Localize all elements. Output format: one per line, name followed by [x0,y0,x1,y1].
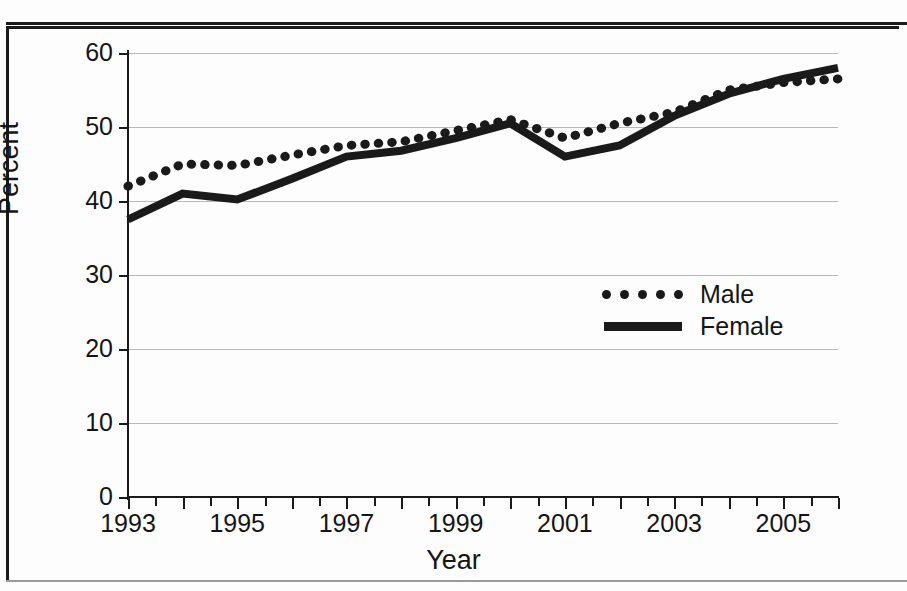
x-tick-2005 [783,498,785,509]
chart-legend: Male Female [600,278,783,342]
x-tick-2000 [510,498,512,509]
x-tick-1999 [456,498,458,509]
x-axis-title: Year [0,545,907,576]
y-tick-40 [119,201,128,203]
x-tick-1993.5 [155,498,157,506]
x-tick-1997 [346,498,348,509]
x-tick-2003 [674,498,676,509]
plot-area [128,53,838,497]
x-tick-1993 [128,498,130,509]
x-tick-1999.5 [483,498,485,506]
x-tick-label-1993: 1993 [100,510,156,537]
x-tick-label-2003: 2003 [646,510,702,537]
x-tick-label-2005: 2005 [756,510,812,537]
solid-line-key [600,315,686,337]
y-tick-50 [119,127,128,129]
x-tick-2001.5 [592,498,594,506]
x-tick-1996 [292,498,294,509]
x-tick-2004 [729,498,731,509]
dotted-line-key [600,283,686,305]
x-tick-label-1997: 1997 [319,510,375,537]
y-tick-label-50: 50 [55,114,113,139]
y-tick-label-40: 40 [55,188,113,213]
x-tick-label-1995: 1995 [209,510,265,537]
x-tick-1995 [237,498,239,509]
x-tick-2000.5 [538,498,540,506]
x-tick-2001 [565,498,567,509]
x-tick-2002 [620,498,622,509]
x-tick-2003.5 [701,498,703,506]
legend-item-male: Male [600,278,783,310]
x-tick-1995.5 [265,498,267,506]
y-tick-30 [119,275,128,277]
y-tick-0 [119,497,128,499]
x-tick-2002.5 [647,498,649,506]
x-tick-1998 [401,498,403,509]
x-tick-2005.5 [811,498,813,506]
data-series-layer [128,53,838,497]
x-tick-1994 [183,498,185,509]
y-tick-label-0: 0 [55,484,113,509]
y-tick-label-30: 30 [55,262,113,287]
x-tick-label-1999: 1999 [428,510,484,537]
y-tick-label-10: 10 [55,410,113,435]
y-axis-title: Percent [0,122,25,215]
legend-label-female: Female [700,314,783,339]
y-tick-60 [119,53,128,55]
x-tick-1998.5 [428,498,430,506]
legend-item-female: Female [600,310,783,342]
legend-label-male: Male [700,282,754,307]
y-tick-label-60: 60 [55,40,113,65]
chart-figure: 6050403020100 19931995199719992001200320… [0,0,907,591]
x-tick-1997.5 [374,498,376,506]
y-tick-10 [119,423,128,425]
x-tick-label-2001: 2001 [537,510,593,537]
x-tick-1994.5 [210,498,212,506]
figure-top-rule [6,22,907,25]
x-tick-1996.5 [319,498,321,506]
x-tick-2004.5 [756,498,758,506]
x-tick-2006 [838,498,840,509]
figure-bottom-rule [6,580,907,582]
y-tick-label-20: 20 [55,336,113,361]
y-tick-20 [119,349,128,351]
